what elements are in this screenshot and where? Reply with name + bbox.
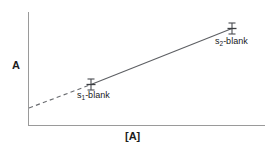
best-fit-line — [91, 29, 232, 85]
point-label-s1-prefix: s — [77, 90, 82, 100]
y-axis-label: A — [12, 60, 20, 71]
standard-addition-figure: A [A] s1-blank s2-blank — [0, 0, 274, 153]
point-label-s2-suffix: -blank — [223, 36, 248, 46]
x-axis-label: [A] — [125, 131, 140, 142]
data-point-s2 — [228, 23, 237, 34]
point-label-s2-subscript: 2 — [220, 40, 224, 47]
data-point-s1 — [87, 79, 96, 90]
point-label-s1-subscript: 1 — [82, 94, 86, 101]
point-label-s1-suffix: -blank — [85, 90, 110, 100]
point-label-s1: s1-blank — [77, 91, 110, 100]
point-label-s2-prefix: s — [215, 36, 220, 46]
point-label-s2: s2-blank — [215, 37, 248, 46]
